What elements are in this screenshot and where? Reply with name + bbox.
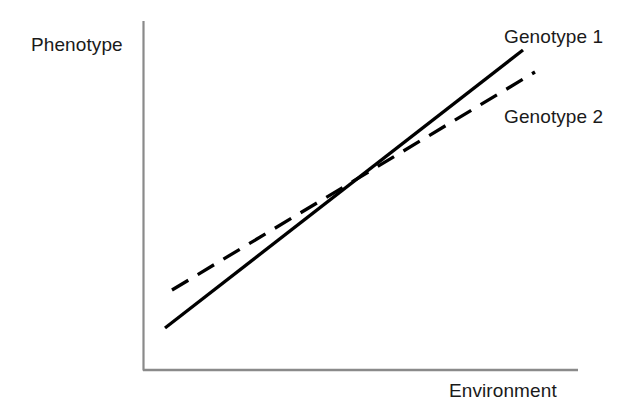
series-label-genotype-1: Genotype 1 bbox=[504, 26, 603, 48]
series-line-genotype-2 bbox=[172, 72, 535, 290]
x-axis-label: Environment bbox=[449, 380, 557, 402]
series-label-genotype-2: Genotype 2 bbox=[504, 106, 603, 128]
reaction-norm-figure: Phenotype Environment Genotype 1 Genotyp… bbox=[0, 0, 643, 410]
series-line-genotype-1 bbox=[165, 50, 523, 328]
y-axis-label: Phenotype bbox=[31, 34, 123, 56]
plot-area bbox=[0, 0, 643, 410]
